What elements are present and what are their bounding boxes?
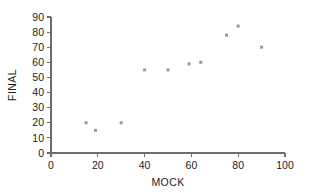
- y-tick-label: 50: [32, 71, 44, 83]
- y-tick-label: 40: [32, 86, 44, 98]
- data-point: [199, 61, 202, 64]
- data-point: [260, 46, 263, 49]
- scatter-chart: 0102030405060708090020406080100MOCKFINAL: [0, 0, 311, 193]
- data-point: [120, 121, 123, 124]
- y-tick-label: 60: [32, 56, 44, 68]
- x-tick-label: 60: [186, 159, 198, 171]
- data-point: [188, 62, 191, 65]
- y-tick-label: 0: [38, 147, 44, 159]
- data-point: [85, 121, 88, 124]
- y-axis-title: FINAL: [6, 69, 18, 101]
- data-point: [143, 68, 146, 71]
- data-point: [167, 68, 170, 71]
- data-point: [94, 129, 97, 132]
- data-point: [237, 25, 240, 28]
- y-tick-label: 80: [32, 26, 44, 38]
- y-tick-label: 70: [32, 41, 44, 53]
- x-axis-title: MOCK: [151, 176, 184, 188]
- plot-area: 0102030405060708090020406080100MOCKFINAL: [0, 0, 311, 193]
- x-tick-label: 40: [139, 159, 151, 171]
- data-point: [225, 34, 228, 37]
- x-tick-label: 100: [276, 159, 294, 171]
- y-tick-label: 30: [32, 101, 44, 113]
- x-tick-label: 20: [92, 159, 104, 171]
- y-tick-label: 20: [32, 116, 44, 128]
- y-tick-label: 90: [32, 11, 44, 23]
- y-tick-label: 10: [32, 132, 44, 144]
- x-tick-label: 0: [48, 159, 54, 171]
- x-tick-label: 80: [232, 159, 244, 171]
